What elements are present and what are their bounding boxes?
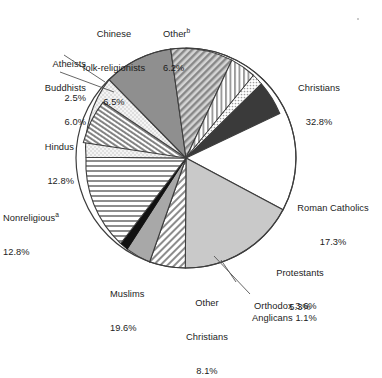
label-name: Muslims: [110, 289, 180, 300]
slice-label-other-christians: Other Christians 8.1%: [171, 275, 243, 378]
slice-label-christians: Christians 32.8%: [278, 60, 360, 151]
label-name: Roman Catholics: [285, 203, 381, 214]
footnote-marker-b: b: [187, 27, 191, 34]
slice-label-other: Otherb 6.2%: [163, 6, 233, 97]
slice-label-nonreligious: Nonreligiousa 12.8%: [3, 190, 93, 281]
label-name: Hindus: [2, 142, 74, 153]
label-percent: 12.8%: [3, 247, 93, 258]
label-percent: 12.8%: [2, 176, 74, 187]
label-percent: 17.3%: [285, 237, 381, 248]
label-name: Otherb: [163, 29, 233, 40]
footnote-marker-a: a: [55, 211, 59, 218]
label-name: Nonreligiousa: [3, 213, 93, 224]
label-percent: 8.1%: [171, 366, 243, 377]
label-name: Christians: [278, 83, 360, 94]
label-percent: 5.3%: [256, 302, 344, 313]
label-name: Other: [171, 298, 243, 309]
label-name: Buddhists: [2, 83, 86, 94]
scan-artifact-speck: [357, 18, 359, 20]
label-percent: 19.6%: [110, 323, 180, 334]
label-name-line2: Christians: [171, 332, 243, 343]
label-percent: 6.2%: [163, 63, 233, 74]
label-percent: 32.8%: [278, 117, 360, 128]
slice-label-roman-catholics: Roman Catholics 17.3%: [285, 180, 381, 271]
slice-label-muslims: Muslims 19.6%: [110, 266, 180, 357]
